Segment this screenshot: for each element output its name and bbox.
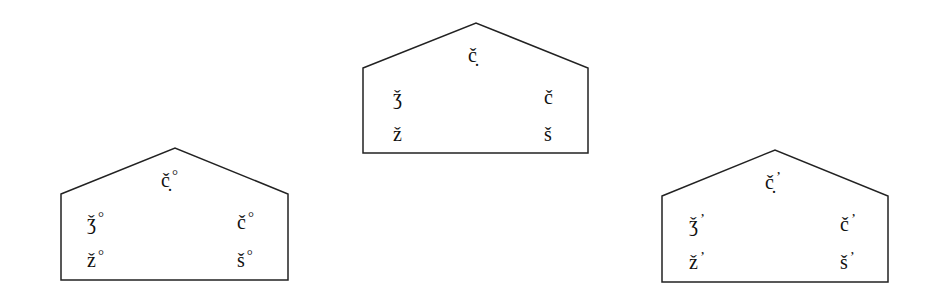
label-text: ž (393, 123, 402, 145)
label-bottom-right: š (544, 124, 554, 146)
label-mid-right: č° (237, 212, 254, 234)
label-mid-right: č’ (840, 214, 856, 236)
label-bottom-right: š’ (840, 252, 855, 274)
marker: ° (98, 209, 104, 225)
label-text: ǯ (87, 211, 96, 233)
label-text: ž (689, 251, 698, 273)
marker: ’ (700, 211, 705, 227)
marker: ° (172, 167, 178, 183)
label-text: č̣ (765, 171, 774, 193)
label-bottom-right: š° (237, 250, 253, 272)
marker: ° (248, 209, 254, 225)
label-text: š (544, 123, 552, 145)
marker: ° (247, 247, 253, 263)
marker: ’ (776, 169, 781, 185)
label-mid-left: ǯ’ (689, 214, 705, 236)
label-top: č̣ (468, 45, 479, 67)
label-top: č̣° (161, 170, 178, 192)
label-mid-left: ǯ (393, 87, 404, 109)
label-text: ǯ (689, 213, 698, 235)
marker: ’ (700, 249, 705, 265)
label-mid-left: ǯ° (87, 212, 104, 234)
label-top: č̣’ (765, 172, 781, 194)
label-mid-right: č (544, 87, 555, 109)
label-bottom-left: ž (393, 124, 404, 146)
label-text: ǯ (393, 86, 402, 108)
label-text: č (544, 86, 553, 108)
label-text: ž (87, 249, 96, 271)
marker: ° (98, 247, 104, 263)
label-text: č (840, 213, 849, 235)
label-bottom-left: ž° (87, 250, 104, 272)
label-text: č (237, 211, 246, 233)
marker: ’ (851, 211, 856, 227)
label-text: š (237, 249, 245, 271)
label-text: č̣ (161, 169, 170, 191)
marker: ’ (850, 249, 855, 265)
label-bottom-left: ž’ (689, 252, 705, 274)
label-text: č̣ (468, 44, 477, 66)
label-text: š (840, 251, 848, 273)
house-outlines (0, 0, 933, 305)
